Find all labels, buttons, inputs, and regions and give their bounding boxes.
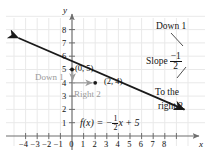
x-axis-label: x: [199, 140, 203, 149]
callout-slope-word: Slope: [146, 57, 168, 67]
y-tick-label-7: 7: [62, 39, 66, 48]
x-tick-label-5: 5: [127, 140, 131, 149]
point-marker-intercept: [70, 68, 74, 72]
x-tick-label-3: 3: [104, 140, 108, 149]
point-label-y-intercept: (0, 5): [75, 64, 93, 73]
helper-label-right-2: Right 2: [74, 90, 101, 99]
callout-to-the: To the: [155, 88, 179, 98]
y-tick-label-1: 1: [62, 119, 66, 128]
y-tick-label-2: 2: [62, 105, 66, 114]
function-equation: f(x) = − 1 2 x + 5: [80, 115, 140, 132]
point-label-second-point: (2, 4): [104, 77, 122, 86]
x-tick-label-4: 4: [116, 140, 120, 149]
graph-figure: 8 7 6 5 4 3 2 1 −4 −3 −2 −1 0 1 2 3 4 5 …: [0, 0, 211, 160]
slope-denominator: 2: [170, 61, 182, 72]
equation-tail: x + 5: [118, 117, 139, 128]
leader-line-down-one: [171, 33, 183, 46]
equation-denominator: 2: [112, 123, 118, 132]
x-tick-label-2: 2: [92, 140, 96, 149]
y-tick-label-8: 8: [62, 26, 66, 35]
x-tick-label--3: −3: [31, 140, 40, 149]
x-tick-label-1: 1: [81, 140, 85, 149]
x-tick-label-8: 8: [162, 140, 166, 149]
x-tick-label--1: −1: [54, 140, 63, 149]
x-tick-label-6: 6: [139, 140, 143, 149]
slope-fraction: −1 2: [170, 52, 182, 72]
point-marker-second: [93, 81, 97, 85]
x-tick-label--4: −4: [19, 140, 28, 149]
callout-slope: Slope −1 2: [146, 52, 182, 72]
y-tick-label-6: 6: [62, 52, 66, 61]
equation-lead: f(x) = −: [80, 117, 112, 128]
helper-label-down-1: Down 1: [35, 73, 64, 82]
callout-down-1: Down 1: [156, 22, 186, 32]
y-tick-label-3: 3: [62, 92, 66, 101]
y-axis-label: y: [63, 6, 67, 15]
x-tick-label--2: −2: [42, 140, 51, 149]
x-tick-label-0: 0: [69, 140, 73, 149]
equation-fraction: 1 2: [112, 115, 118, 132]
callout-right-2: right 2: [158, 102, 183, 112]
equation-numerator: 1: [112, 115, 118, 123]
x-tick-label-7: 7: [150, 140, 154, 149]
slope-numerator: −1: [170, 52, 182, 62]
